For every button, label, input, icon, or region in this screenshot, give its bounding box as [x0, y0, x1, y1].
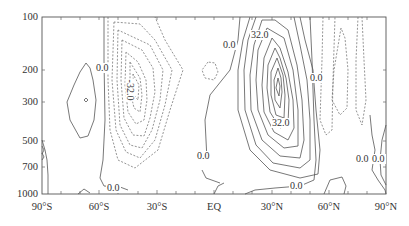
y-tick-300: 300	[2, 96, 38, 108]
x-tick-90n: 90°N	[366, 201, 406, 213]
y-tick-200: 200	[2, 64, 38, 76]
contour-label: 0.0	[355, 154, 370, 164]
x-tick-eq: EQ	[194, 201, 234, 213]
x-tick-30s: 30°S	[137, 201, 177, 213]
y-tick-100: 100	[2, 11, 38, 23]
y-tick-1000: 1000	[2, 188, 38, 200]
contour-label: 32.0	[271, 118, 291, 128]
contour-label: 0.0	[196, 151, 211, 161]
contour-label: 0.0	[371, 154, 386, 164]
contour-label: 0.0	[106, 183, 121, 193]
x-tick-90s: 90°S	[22, 201, 62, 213]
contour-label: 0.0	[309, 73, 324, 83]
contour-label: 0.0	[222, 40, 237, 50]
x-tick-60n: 60°N	[309, 201, 349, 213]
contour-label: 32.0	[250, 30, 270, 40]
contour-label: 0.0	[289, 181, 304, 191]
y-tick-500: 500	[2, 135, 38, 147]
x-tick-60s: 60°S	[79, 201, 119, 213]
x-tick-30n: 30°N	[252, 201, 292, 213]
contour-plot	[0, 0, 409, 226]
contour-label: -32.0	[125, 79, 135, 102]
contour-label: 0.0	[95, 63, 110, 73]
y-tick-700: 700	[2, 161, 38, 173]
dashed-contours	[108, 17, 366, 168]
